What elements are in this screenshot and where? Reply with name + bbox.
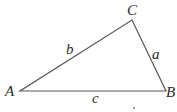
- vertex-label-b: B: [166, 85, 175, 100]
- triangle-diagram: A B C b a c: [0, 0, 177, 112]
- side-label-b: b: [66, 42, 74, 57]
- triangle-outline: [20, 20, 166, 91]
- vertex-label-c: C: [127, 3, 137, 18]
- crop-artifact: [133, 107, 135, 109]
- side-label-c: c: [92, 91, 99, 106]
- side-label-a: a: [152, 47, 160, 62]
- vertex-label-a: A: [5, 84, 14, 99]
- triangle-shape: [0, 0, 177, 112]
